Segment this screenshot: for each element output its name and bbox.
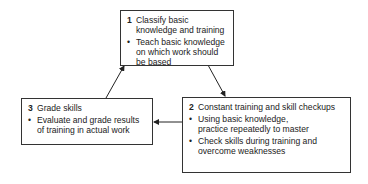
bullet-icon: • — [28, 115, 37, 135]
step-bullet: Teach basic knowledge on which work shou… — [136, 37, 227, 67]
step-title: Grade skills — [37, 103, 82, 113]
bullet-icon: • — [189, 136, 198, 156]
bullet-icon: • — [189, 114, 198, 134]
arrow-3-to-1 — [106, 66, 124, 98]
step-bullet: Check skills during training and overcom… — [198, 136, 318, 156]
step-number: 2 — [189, 102, 198, 112]
step-number: 3 — [28, 103, 37, 113]
step-title: Constant training and skill checkups — [198, 102, 335, 112]
step-bullet: Evaluate and grade results of training i… — [37, 115, 146, 135]
step-3-box: 3Grade skills •Evaluate and grade result… — [21, 98, 153, 145]
arrow-1-to-2 — [208, 65, 225, 96]
bullet-icon: • — [127, 37, 136, 67]
step-bullet: Using basic knowledge, practice repeated… — [198, 114, 318, 134]
step-number: 1 — [127, 15, 136, 35]
step-1-box: 1Classify basic knowledge and training •… — [120, 10, 234, 66]
step-title: Classify basic knowledge and training — [136, 15, 227, 35]
step-2-box: 2Constant training and skill checkups •U… — [182, 97, 351, 173]
